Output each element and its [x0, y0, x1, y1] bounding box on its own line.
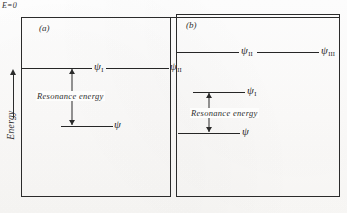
panel-b-frame — [176, 14, 340, 197]
resonance-energy-diagram: E=0 Energy (a) ψI ψII ψ Resonance energy… — [0, 0, 347, 213]
panel-a-lower-level — [61, 126, 113, 127]
panel-b-upper-level-right-segment — [257, 52, 319, 53]
panel-b-psi-ground-symbol: ψ — [242, 125, 249, 137]
energy-axis-label: Energy — [6, 102, 16, 148]
panel-b-upper-level-left-segment — [177, 52, 239, 53]
panel-a-upper-level-right-segment — [106, 68, 169, 69]
panel-a-psi-1-subscript: I — [101, 66, 103, 73]
panel-b-resonance-energy-label: Resonance energy — [190, 108, 259, 118]
energy-zero-label: E=0 — [2, 1, 17, 10]
panel-a-resonance-energy-label: Resonance energy — [36, 91, 105, 101]
panel-b-middle-level — [193, 92, 245, 93]
panel-a-upper-level-left-segment — [22, 68, 92, 69]
panel-b-psi-3-subscript: III — [328, 50, 335, 57]
panel-b-psi-1-subscript: I — [254, 90, 256, 97]
panel-b-state-label-psi-3: ψIII — [321, 45, 335, 56]
panel-b-psi-3-symbol: ψ — [321, 44, 328, 56]
panel-b-psi-1-symbol: ψ — [247, 84, 254, 96]
panel-b-arrow-head-down-icon — [206, 127, 212, 132]
panel-b-state-label-psi-1: ψI — [247, 85, 256, 96]
panel-a-frame — [21, 17, 171, 197]
panel-b-psi-2-symbol: ψ — [241, 44, 248, 56]
panel-b-state-label-psi-ground: ψ — [242, 126, 249, 137]
panel-a-caption: (a) — [39, 23, 50, 33]
panel-a-psi-1-symbol: ψ — [94, 60, 101, 72]
panel-b-lower-level — [178, 133, 240, 134]
panel-b-caption: (b) — [186, 20, 197, 30]
panel-b-state-label-psi-2: ψII — [241, 45, 253, 56]
panel-a-state-label-psi-1: ψI — [94, 61, 103, 72]
panel-a-psi-ground-symbol: ψ — [114, 118, 121, 130]
panel-a-arrow-head-down-icon — [69, 120, 75, 125]
panel-a-state-label-psi-ground: ψ — [114, 119, 121, 130]
panel-b-psi-2-subscript: II — [248, 50, 253, 57]
